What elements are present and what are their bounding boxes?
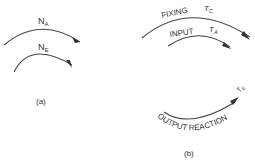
arrow-ne: NE — [14, 42, 72, 72]
caption-b: (b) — [184, 149, 194, 158]
panel-a: NA NE (a) — [4, 16, 80, 106]
label-ne: NE — [38, 42, 49, 53]
arrow-output-reaction: OUTPUT REACTION TE — [156, 83, 247, 133]
arrow-na: NA — [4, 16, 80, 45]
arrow-input: INPUT TA — [168, 25, 231, 49]
label-tc: TC — [204, 4, 213, 14]
panel-b: FIXING TC INPUT TA OUTPUT REACTION TE (b… — [142, 4, 250, 158]
arrow-fixing: FIXING TC — [142, 4, 250, 40]
arc-fixing — [142, 18, 250, 38]
label-input: INPUT — [169, 27, 194, 39]
label-na: NA — [38, 16, 49, 27]
caption-a: (a) — [36, 97, 46, 106]
diagram-canvas: NA NE (a) FIXING TC INPUT TA OUTPUT REAC… — [0, 0, 255, 163]
label-ta: TA — [209, 25, 218, 35]
label-output-reaction: OUTPUT REACTION — [156, 112, 229, 133]
arc-ne — [14, 54, 72, 72]
arrowhead-na — [72, 37, 80, 43]
label-te: TE — [235, 83, 247, 95]
